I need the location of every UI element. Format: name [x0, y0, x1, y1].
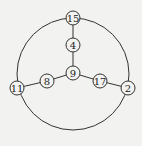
node-label: 2 [125, 83, 131, 94]
node-label: 8 [44, 76, 50, 87]
node-15: 15 [66, 11, 80, 25]
graph-diagram: 1549811172 [0, 0, 142, 146]
node-label: 4 [70, 40, 76, 51]
node-label: 15 [67, 13, 80, 24]
node-label: 17 [94, 76, 107, 87]
node-9: 9 [66, 66, 80, 80]
node-4: 4 [66, 38, 80, 52]
node-11: 11 [10, 81, 24, 95]
node-2: 2 [121, 81, 135, 95]
node-label: 9 [70, 68, 76, 79]
node-8: 8 [40, 74, 54, 88]
node-label: 11 [11, 83, 24, 94]
node-17: 17 [93, 74, 107, 88]
